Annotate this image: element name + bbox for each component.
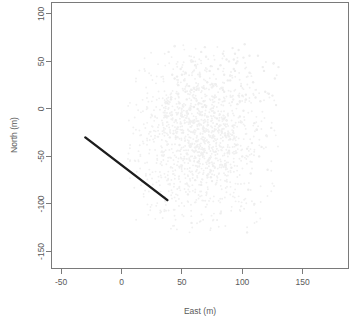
cloud-point xyxy=(222,86,224,88)
cloud-point xyxy=(206,152,208,154)
cloud-point xyxy=(228,139,230,141)
cloud-point xyxy=(207,142,209,144)
cloud-point xyxy=(147,92,149,94)
cloud-point xyxy=(247,188,249,190)
cloud-point xyxy=(231,75,233,77)
cloud-point xyxy=(233,68,235,70)
cloud-point xyxy=(168,115,170,117)
cloud-point xyxy=(239,158,241,160)
cloud-point xyxy=(209,77,211,79)
cloud-point xyxy=(176,228,178,230)
cloud-point xyxy=(150,74,152,76)
cloud-point xyxy=(195,82,197,84)
cloud-point xyxy=(155,205,157,207)
cloud-point xyxy=(263,99,265,101)
cloud-point xyxy=(225,169,227,171)
cloud-point xyxy=(214,128,216,130)
cloud-point xyxy=(152,138,154,140)
cloud-point xyxy=(203,79,205,81)
cloud-point xyxy=(214,59,216,61)
cloud-point xyxy=(206,203,208,205)
cloud-point xyxy=(162,133,164,135)
cloud-point xyxy=(226,175,228,177)
cloud-point xyxy=(204,113,206,115)
cloud-point xyxy=(180,126,182,128)
cloud-point xyxy=(207,116,209,118)
cloud-point xyxy=(165,204,167,206)
cloud-point xyxy=(148,133,150,135)
cloud-point xyxy=(238,195,240,197)
cloud-point xyxy=(184,88,186,90)
cloud-point xyxy=(244,101,246,103)
cloud-point xyxy=(177,106,179,108)
cloud-point xyxy=(205,109,207,111)
cloud-point xyxy=(234,165,236,167)
cloud-point xyxy=(231,206,233,208)
cloud-point xyxy=(184,162,186,164)
cloud-point xyxy=(231,120,233,122)
cloud-point xyxy=(166,125,168,127)
cloud-point xyxy=(161,139,163,141)
cloud-point xyxy=(231,134,233,136)
cloud-point xyxy=(229,74,231,76)
cloud-point xyxy=(165,210,167,212)
cloud-point xyxy=(156,99,158,101)
cloud-point xyxy=(168,124,170,126)
cloud-point xyxy=(248,97,250,99)
cloud-point xyxy=(206,68,208,70)
cloud-point xyxy=(183,205,185,207)
cloud-point xyxy=(169,136,171,138)
cloud-point xyxy=(181,109,183,111)
cloud-point xyxy=(146,140,148,142)
cloud-point xyxy=(251,153,253,155)
cloud-point xyxy=(167,143,169,145)
cloud-point xyxy=(199,171,201,173)
cloud-point xyxy=(186,115,188,117)
cloud-point xyxy=(241,201,243,203)
cloud-point xyxy=(148,169,150,171)
cloud-point xyxy=(164,110,166,112)
cloud-point xyxy=(161,164,163,166)
cloud-point xyxy=(146,162,148,164)
cloud-point xyxy=(188,142,190,144)
cloud-point xyxy=(189,106,191,108)
cloud-point xyxy=(170,179,172,181)
cloud-point xyxy=(195,116,197,118)
cloud-point xyxy=(237,148,239,150)
cloud-point xyxy=(213,112,215,114)
cloud-point xyxy=(213,162,215,164)
cloud-point xyxy=(200,112,202,114)
cloud-point xyxy=(193,157,195,159)
cloud-point xyxy=(165,149,167,151)
cloud-point xyxy=(176,150,178,152)
cloud-point xyxy=(213,174,215,176)
cloud-point xyxy=(178,178,180,180)
cloud-point xyxy=(223,133,225,135)
cloud-point xyxy=(127,158,129,160)
cloud-point xyxy=(209,198,211,200)
cloud-point xyxy=(165,163,167,165)
cloud-point xyxy=(236,57,238,59)
cloud-point xyxy=(197,63,199,65)
cloud-point xyxy=(229,146,231,148)
cloud-point xyxy=(178,144,180,146)
cloud-point xyxy=(166,98,168,100)
cloud-point xyxy=(186,98,188,100)
cloud-point xyxy=(189,159,191,161)
cloud-point xyxy=(209,109,211,111)
cloud-point xyxy=(206,163,208,165)
cloud-point xyxy=(208,89,210,91)
cloud-point xyxy=(211,215,213,217)
cloud-point xyxy=(172,117,174,119)
cloud-point xyxy=(143,196,145,198)
cloud-point xyxy=(233,115,235,117)
cloud-point xyxy=(174,196,176,198)
cloud-point xyxy=(238,117,240,119)
cloud-point xyxy=(211,163,213,165)
cloud-point xyxy=(137,109,139,111)
cloud-point xyxy=(212,107,214,109)
cloud-point xyxy=(143,143,145,145)
cloud-point xyxy=(178,101,180,103)
cloud-point xyxy=(225,95,227,97)
cloud-point xyxy=(152,96,154,98)
